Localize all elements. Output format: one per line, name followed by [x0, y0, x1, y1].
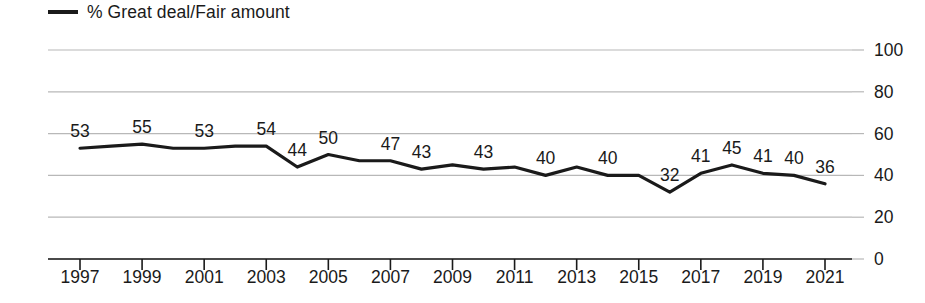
y-axis-tick-label: 60 [874, 123, 893, 144]
x-axis-tick-label: 2013 [557, 267, 596, 288]
x-axis-tick-label: 2009 [433, 267, 472, 288]
x-axis-tick-label: 2015 [619, 267, 658, 288]
x-axis-tick-label: 2003 [247, 267, 286, 288]
y-axis-tick-label: 20 [874, 207, 893, 228]
x-axis-tick-label: 2001 [185, 267, 224, 288]
data-point-label: 32 [660, 167, 679, 185]
line-chart: % Great deal/Fair amount 535553544450474… [0, 0, 925, 303]
x-axis-tick-label: 2007 [371, 267, 410, 288]
x-axis-tick-label: 2017 [681, 267, 720, 288]
x-axis-tick-label: 2011 [496, 267, 534, 288]
y-axis-tick-label: 80 [874, 81, 893, 102]
data-point-label: 36 [815, 158, 834, 176]
data-point-label: 44 [288, 142, 307, 160]
data-point-label: 53 [70, 123, 89, 141]
y-axis-tick-label: 0 [874, 249, 884, 270]
data-point-label: 53 [194, 123, 213, 141]
x-axis-tick-label: 2005 [309, 267, 348, 288]
data-point-label: 40 [536, 150, 555, 168]
y-axis-tick-label: 40 [874, 165, 893, 186]
y-axis-tick-label: 100 [874, 40, 903, 61]
data-point-label: 40 [784, 150, 803, 168]
data-point-label: 40 [598, 150, 617, 168]
data-point-label: 43 [474, 144, 493, 162]
data-point-label: 50 [319, 129, 338, 147]
x-axis-tick-label: 1999 [123, 267, 162, 288]
y-axis-ticks [852, 50, 864, 259]
data-point-label: 47 [381, 135, 400, 153]
x-axis-tick-label: 2019 [743, 267, 782, 288]
data-point-label: 41 [691, 148, 710, 166]
data-point-label: 54 [257, 121, 276, 139]
x-axis-tick-label: 1997 [61, 267, 100, 288]
data-point-label: 45 [722, 139, 741, 157]
x-axis-tick-label: 2021 [806, 267, 845, 288]
data-point-label: 43 [412, 144, 431, 162]
data-point-label: 55 [132, 119, 151, 137]
series-line-great-deal-fair-amount [80, 144, 825, 192]
data-point-label: 41 [753, 148, 772, 166]
